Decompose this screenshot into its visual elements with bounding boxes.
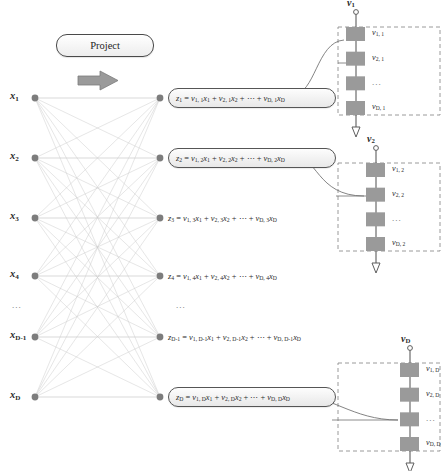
vector-axis-origin-v1 [354, 10, 359, 15]
equation-text: z3 = v1, 3x1 + v2, 3x2 + ⋯ + vD, 3xD [168, 213, 277, 223]
equation-1-boxed[interactable]: z1 = v1, 1x1 + v2, 1x2 + ⋯ + vD, 1xD [168, 88, 336, 108]
vector-bar-v1-2 [346, 52, 365, 66]
output-node-6[interactable] [157, 394, 164, 401]
vector-bar-vD-3 [400, 412, 419, 426]
vector-entry-label-vD-3: ... [426, 413, 436, 423]
arrow-shape [78, 71, 118, 90]
project-button[interactable]: Project [56, 34, 154, 57]
vector-axis-origin-v2 [374, 146, 379, 151]
equation-ellipsis: ... [176, 300, 186, 310]
vector-entry-label-vD-2: v2, D [426, 389, 439, 398]
vector-axis-arrow-v2 [372, 263, 380, 273]
equation-text: z2 = v1, 2x1 + v2, 2x2 + ⋯ + vD, 2xD [176, 153, 285, 163]
input-node-5[interactable] [32, 334, 39, 341]
output-node-3[interactable] [157, 215, 164, 222]
vector-entry-label-v1-2: v2, 1 [372, 53, 384, 62]
vector-bar-v2-1 [366, 163, 385, 177]
vector-entry-label-v2-2: v2, 2 [392, 189, 404, 198]
input-label-3: x3 [10, 210, 19, 223]
vector-entry-label-v2-1: v1, 2 [392, 164, 404, 173]
vector-bar-vD-2 [400, 388, 419, 402]
vector-axis-arrow-v1 [352, 127, 360, 137]
equation-4: z4 = v1, 4x1 + v2, 4x2 + ⋯ + vD, 4xD [168, 266, 336, 286]
vector-entry-label-v1-1: v1, 1 [372, 28, 384, 37]
vector-entry-label-v2-4: vD, 2 [392, 238, 405, 247]
output-node-4[interactable] [157, 273, 164, 280]
output-node-5[interactable] [157, 334, 164, 341]
equation-2-boxed[interactable]: z2 = v1, 2x1 + v2, 2x2 + ⋯ + vD, 2xD [168, 148, 336, 168]
vector-bar-v2-2 [366, 188, 385, 202]
output-node-2[interactable] [157, 155, 164, 162]
vector-entry-label-vD-4: vD, D [426, 438, 440, 447]
vector-panel-label-v2: v2 [367, 133, 375, 144]
input-node-4[interactable] [32, 273, 39, 280]
equation-3: z3 = v1, 3x1 + v2, 3x2 + ⋯ + vD, 3xD [168, 208, 336, 228]
vector-axis-origin-vD [408, 346, 413, 351]
vector-bar-v1-3 [346, 76, 365, 90]
vector-entry-label-v1-4: vD, 1 [372, 102, 385, 111]
vector-panel-box-vD [338, 363, 440, 451]
diagram-canvas: Project x1x2x3x4xD-1xD...z1 = v1, 1x1 + … [0, 0, 448, 471]
input-node-2[interactable] [32, 155, 39, 162]
vector-bar-vD-4 [400, 437, 419, 451]
input-ellipsis: ... [12, 300, 22, 310]
connector-curve-1 [292, 40, 344, 95]
vector-bar-v1-4 [346, 101, 365, 115]
vector-bar-v1-1 [346, 27, 365, 41]
vector-axis-arrow-vD [406, 463, 414, 471]
vector-entry-label-vD-1: v1, D [426, 364, 439, 373]
vector-entry-label-v1-3: ... [372, 77, 382, 87]
input-label-6: xD [10, 389, 20, 402]
input-label-4: x4 [10, 268, 19, 281]
input-label-5: xD-1 [10, 329, 26, 342]
vector-panel-box-v2 [338, 163, 440, 251]
vector-bar-v2-3 [366, 212, 385, 226]
vector-entry-label-v2-3: ... [392, 213, 402, 223]
equation-text: z1 = v1, 1x1 + v2, 1x2 + ⋯ + vD, 1xD [176, 93, 285, 103]
vector-bar-vD-1 [400, 363, 419, 377]
output-node-1[interactable] [157, 95, 164, 102]
equation-text: zD = v1, Dx1 + v2, Dx2 + ⋯ + vD, DxD [176, 392, 290, 402]
vector-panel-label-v1: v1 [347, 0, 355, 8]
input-node-1[interactable] [32, 95, 39, 102]
input-label-1: x1 [10, 90, 19, 103]
equation-text: zD-1 = v1, D-1x1 + v2, D-1x2 + ⋯ + vD, D… [168, 332, 301, 342]
input-label-2: x2 [10, 150, 19, 163]
input-node-6[interactable] [32, 394, 39, 401]
project-button-label: Project [90, 40, 120, 51]
input-node-3[interactable] [32, 215, 39, 222]
equation-text: z4 = v1, 4x1 + v2, 4x2 + ⋯ + vD, 4xD [168, 271, 277, 281]
right-arrow-icon [78, 71, 118, 90]
equation-6-boxed[interactable]: zD = v1, Dx1 + v2, Dx2 + ⋯ + vD, DxD [168, 387, 336, 407]
vector-panel-label-vD: vD [401, 333, 410, 344]
vector-bar-v2-4 [366, 237, 385, 251]
equation-5: zD-1 = v1, D-1x1 + v2, D-1x2 + ⋯ + vD, D… [168, 327, 365, 347]
